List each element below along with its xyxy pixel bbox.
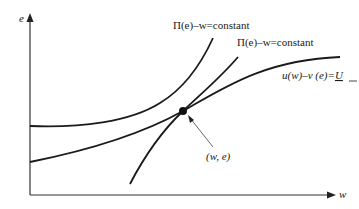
point-label: (w, e) xyxy=(206,150,231,163)
isoprofit-upper-label: Π(e)–w=constant xyxy=(173,19,249,32)
contract-diagram: e w Π(e)–w=constant Π(e)–w=constant u(w)… xyxy=(0,0,359,209)
pointer-line xyxy=(190,118,213,147)
participation-label: u(w)–v (e)=U xyxy=(282,69,344,82)
participation-label-main: u(w)–v (e)= xyxy=(282,69,335,82)
isoprofit-lower-label: Π(e)–w=constant xyxy=(237,36,313,49)
isoprofit-curve-lower xyxy=(130,57,238,184)
y-axis-arrow-icon xyxy=(27,13,34,22)
x-axis-label: w xyxy=(339,188,347,200)
participation-label-u: U xyxy=(335,69,344,81)
x-axis-arrow-icon xyxy=(327,192,336,199)
y-axis-label: e xyxy=(19,12,24,24)
optimal-contract-point xyxy=(179,107,187,115)
